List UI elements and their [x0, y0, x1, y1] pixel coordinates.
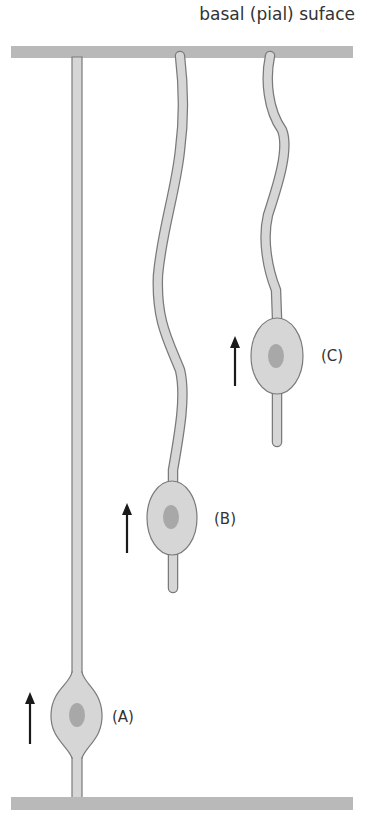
- cell-a-nucleus: [69, 703, 85, 727]
- cell-a-label: (A): [112, 708, 134, 726]
- apical-surface-bar: [11, 797, 353, 810]
- cell-c: [251, 56, 303, 442]
- cell-a: [51, 57, 102, 798]
- cell-b-label: (B): [214, 510, 236, 528]
- up-arrow-icon: [230, 336, 240, 386]
- up-arrow-icon: [25, 692, 35, 744]
- cell-b-nucleus: [163, 505, 179, 529]
- cell-a-fiber: [66, 57, 82, 692]
- up-arrow-icon: [122, 503, 132, 553]
- cell-c-label: (C): [321, 347, 343, 365]
- cell-c-nucleus: [268, 344, 284, 368]
- cell-b: [147, 56, 197, 588]
- neuronal-migration-diagram: (A) (B) (C): [0, 0, 367, 819]
